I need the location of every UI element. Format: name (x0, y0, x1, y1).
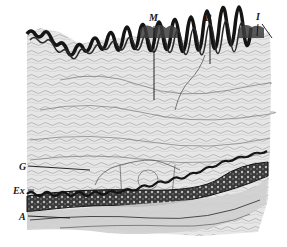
label-Ex: Ex (13, 186, 25, 196)
label-M: M (149, 13, 158, 23)
tissue-illustration (0, 0, 287, 247)
label-I: I (256, 12, 260, 22)
label-G: G (19, 162, 26, 172)
label-R: R (205, 13, 212, 23)
artery-section-figure: M R I G Ex A (0, 0, 287, 247)
label-A: A (19, 212, 26, 222)
